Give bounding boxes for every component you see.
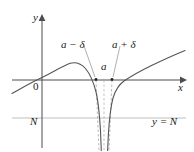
y-axis-arrowhead <box>39 14 46 21</box>
y-axis-label: y <box>33 12 38 23</box>
label-a-plus-delta: a + δ <box>112 39 136 50</box>
label-y-equals-N: y = N <box>152 116 177 127</box>
tick-dot-a-minus-delta <box>95 78 98 81</box>
leader-line-a-minus-delta <box>84 46 95 77</box>
leader-line-a-plus-delta <box>113 46 120 77</box>
function-curve-right-branch <box>108 51 185 152</box>
tick-dot-a-plus-delta <box>111 78 114 81</box>
function-curve-left-branch <box>12 63 101 151</box>
x-axis-label: x <box>178 82 183 93</box>
diagram-canvas <box>0 0 194 151</box>
dashed-line-a-minus-delta <box>96 80 99 151</box>
label-a-minus-delta: a − δ <box>61 39 85 50</box>
label-N: N <box>30 116 37 127</box>
label-a: a <box>101 61 107 72</box>
origin-label: 0 <box>33 81 39 92</box>
limit-diagram-figure: y x 0 a − δ a + δ a N y = N <box>0 0 194 151</box>
